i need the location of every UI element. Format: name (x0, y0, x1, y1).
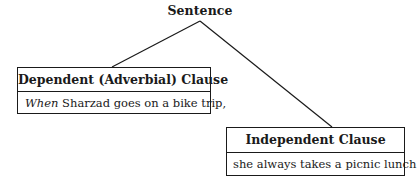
dependent-clause-node: Dependent (Adverbial) Clause When Sharza… (17, 67, 211, 114)
root-node-sentence: Sentence (150, 3, 250, 18)
independent-clause-text: she always takes a picnic lunch. (227, 153, 404, 176)
subordinator-word: When (25, 96, 58, 110)
dependent-clause-rest: Sharzad goes on a bike trip, (58, 96, 226, 110)
independent-clause-title: Independent Clause (227, 128, 404, 153)
independent-clause-node: Independent Clause she always takes a pi… (226, 127, 405, 176)
edge-root-to-dependent (112, 21, 200, 67)
dependent-clause-title: Dependent (Adverbial) Clause (18, 68, 210, 92)
dependent-clause-text: When Sharzad goes on a bike trip, (18, 92, 210, 114)
